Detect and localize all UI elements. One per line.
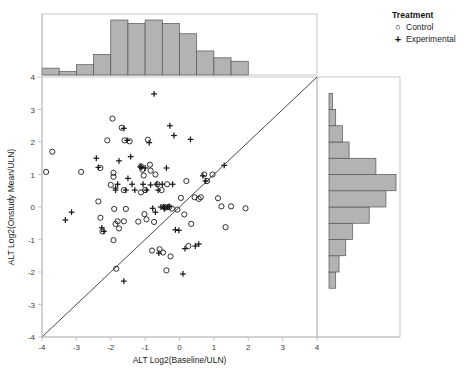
identity-reference-line bbox=[42, 77, 317, 337]
right-histogram-bar bbox=[329, 158, 376, 174]
top-histogram-bar bbox=[180, 34, 197, 75]
top-histogram-bar bbox=[111, 20, 128, 75]
point-control bbox=[141, 173, 146, 178]
top-histogram-bar bbox=[214, 58, 231, 75]
y-tick-label: 2 bbox=[31, 138, 36, 147]
x-tick-label: 4 bbox=[315, 343, 320, 352]
point-experimental bbox=[159, 181, 165, 187]
x-tick-label: -1 bbox=[142, 343, 150, 352]
right-histogram-bar bbox=[329, 110, 336, 126]
top-histogram-bar bbox=[128, 23, 145, 75]
point-experimental bbox=[121, 278, 127, 284]
point-control bbox=[111, 238, 116, 243]
point-control bbox=[144, 217, 149, 222]
top-histogram-bar bbox=[42, 68, 59, 75]
y-tick-label: 4 bbox=[31, 73, 36, 82]
point-experimental bbox=[140, 181, 146, 187]
point-experimental bbox=[171, 133, 177, 139]
right-histogram bbox=[329, 93, 396, 288]
right-histogram-bar bbox=[329, 93, 332, 109]
point-control bbox=[184, 178, 189, 183]
top-histogram bbox=[42, 20, 248, 75]
point-control bbox=[112, 206, 117, 211]
point-experimental bbox=[69, 209, 75, 215]
top-histogram-bar bbox=[94, 54, 111, 75]
right-histogram-bar bbox=[329, 126, 342, 142]
series-control bbox=[44, 116, 249, 273]
right-histogram-bar bbox=[329, 207, 369, 223]
point-experimental bbox=[116, 158, 122, 164]
point-control bbox=[219, 204, 224, 209]
x-axis-title: ALT Log2(Baseline/ULN) bbox=[133, 355, 227, 365]
point-experimental bbox=[151, 91, 157, 97]
point-control bbox=[228, 204, 233, 209]
x-tick-label: 3 bbox=[280, 343, 285, 352]
point-control bbox=[123, 206, 128, 211]
point-control bbox=[136, 219, 141, 224]
top-histogram-bar bbox=[76, 65, 93, 75]
right-histogram-bar bbox=[329, 256, 339, 272]
point-experimental bbox=[146, 140, 152, 146]
point-control bbox=[165, 182, 170, 187]
point-control bbox=[111, 174, 116, 179]
point-control bbox=[138, 190, 143, 195]
point-experimental bbox=[203, 178, 209, 184]
top-histogram-bar bbox=[162, 23, 179, 75]
top-histogram-bar bbox=[197, 51, 214, 75]
legend-title: Treatment bbox=[392, 10, 434, 20]
point-control bbox=[175, 207, 180, 212]
point-control bbox=[189, 221, 194, 226]
x-tick-label: 2 bbox=[246, 343, 251, 352]
legend-label-experimental: Experimental bbox=[406, 34, 456, 44]
legend-entry-experimental: + Experimental bbox=[392, 33, 456, 45]
x-axis: -4-3-2-101234 bbox=[38, 337, 400, 352]
point-control bbox=[151, 219, 156, 224]
point-control bbox=[182, 212, 187, 217]
point-control bbox=[153, 172, 158, 177]
point-experimental bbox=[144, 187, 150, 193]
point-control bbox=[160, 250, 165, 255]
top-histogram-bar bbox=[145, 20, 162, 75]
right-histogram-bar bbox=[329, 223, 352, 239]
y-axis-title: ALT Log2(Onstudy Mean/ULN) bbox=[6, 149, 16, 266]
point-control bbox=[243, 206, 248, 211]
point-experimental bbox=[167, 123, 173, 129]
right-histogram-bar bbox=[329, 272, 336, 288]
legend-label-control: Control bbox=[406, 22, 433, 32]
point-control bbox=[186, 243, 191, 248]
point-experimental bbox=[200, 173, 206, 179]
point-experimental bbox=[132, 187, 138, 193]
point-experimental bbox=[62, 217, 68, 223]
point-experimental bbox=[172, 227, 178, 233]
x-tick-label: 0 bbox=[177, 343, 182, 352]
y-axis: -4-3-2-101234 bbox=[28, 14, 42, 342]
point-control bbox=[121, 219, 126, 224]
chart-figure: -4-3-2-101234-4-3-2-101234ALT Log2(Basel… bbox=[0, 0, 471, 382]
point-control bbox=[116, 226, 121, 231]
point-control bbox=[44, 169, 49, 174]
point-experimental bbox=[188, 137, 194, 143]
point-control bbox=[149, 248, 154, 253]
point-control bbox=[96, 199, 101, 204]
point-experimental bbox=[176, 228, 182, 234]
x-tick-label: -3 bbox=[73, 343, 81, 352]
point-experimental bbox=[170, 181, 176, 187]
point-control bbox=[105, 138, 110, 143]
point-control bbox=[108, 182, 113, 187]
point-control bbox=[110, 116, 115, 121]
point-control bbox=[142, 212, 147, 217]
legend-entry-control: ○ Control bbox=[392, 22, 433, 32]
point-control bbox=[98, 215, 103, 220]
x-tick-label: -2 bbox=[107, 343, 115, 352]
point-experimental bbox=[93, 155, 99, 161]
point-experimental bbox=[153, 209, 159, 215]
y-tick-label: 0 bbox=[31, 203, 36, 212]
point-control bbox=[215, 196, 220, 201]
scatter-with-marginal-histograms: -4-3-2-101234-4-3-2-101234ALT Log2(Basel… bbox=[0, 0, 471, 382]
y-tick-label: -1 bbox=[28, 236, 36, 245]
x-tick-label: 1 bbox=[212, 343, 217, 352]
top-histogram-bar bbox=[59, 72, 76, 75]
point-experimental bbox=[129, 181, 135, 187]
point-control bbox=[168, 254, 173, 259]
x-tick-label: -4 bbox=[38, 343, 46, 352]
